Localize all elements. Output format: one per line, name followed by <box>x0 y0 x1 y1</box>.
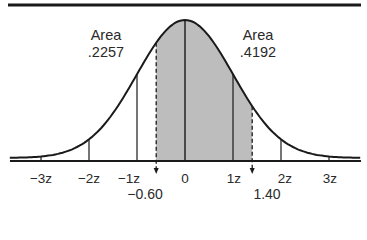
tick-label-zero: 0 <box>170 171 200 186</box>
tick-label-3z: 3z <box>315 171 345 186</box>
right-area-title: Area <box>236 27 280 44</box>
left-area-label: Area .2257 <box>84 27 128 61</box>
arrow-down-icon <box>154 168 159 174</box>
tick-label-1z: 1z <box>219 171 249 186</box>
lower-bound-label: −0.60 <box>120 187 170 202</box>
tick-label-neg2z: −2z <box>74 171 104 186</box>
arrow-down-icon <box>250 168 255 174</box>
right-area-value: .4192 <box>236 44 280 61</box>
tick-label-2z: 2z <box>270 171 300 186</box>
left-area-title: Area <box>84 27 128 44</box>
right-area-label: Area .4192 <box>236 27 280 61</box>
left-area-value: .2257 <box>84 44 128 61</box>
tick-label-neg1z: −1z <box>114 171 144 186</box>
tick-label-neg3z: −3z <box>26 171 56 186</box>
upper-bound-label: 1.40 <box>245 187 289 202</box>
